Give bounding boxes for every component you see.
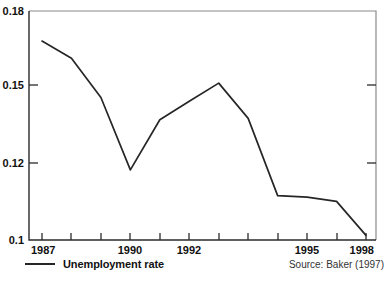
chart-legend: Unemployment rate Source: Baker (1997) xyxy=(0,258,388,285)
y-tick-marks-right xyxy=(367,85,376,163)
x-tick-marks xyxy=(42,233,366,240)
x-tick-label-1998: 1998 xyxy=(350,244,374,256)
y-tick-label-3: 0.1 xyxy=(9,234,24,246)
x-tick-label-1992: 1992 xyxy=(177,244,201,256)
series-line-unemployment-rate xyxy=(42,41,366,235)
legend-item-unemployment-rate: Unemployment rate xyxy=(25,258,164,270)
chart-figure: 0.18 0.15 0.12 0.1 1987 1990 1992 1995 1… xyxy=(0,0,388,285)
plot-frame xyxy=(29,11,376,240)
x-tick-label-1987: 1987 xyxy=(31,244,55,256)
plot-axes xyxy=(29,11,376,240)
source-note: Source: Baker (1997) xyxy=(289,259,384,270)
y-tick-marks xyxy=(29,85,38,163)
line-chart-canvas: 0.18 0.15 0.12 0.1 1987 1990 1992 1995 1… xyxy=(0,0,388,285)
y-tick-label-0: 0.18 xyxy=(3,5,24,17)
legend-line-swatch-icon xyxy=(25,263,55,265)
y-tick-label-1: 0.15 xyxy=(3,79,24,91)
x-tick-label-1990: 1990 xyxy=(118,244,142,256)
legend-item-label: Unemployment rate xyxy=(63,258,164,270)
y-tick-label-2: 0.12 xyxy=(3,157,24,169)
x-tick-label-1995: 1995 xyxy=(295,244,319,256)
